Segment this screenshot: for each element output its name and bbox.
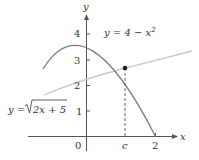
y-axis-arrow-icon [84,14,89,20]
y-tick-label-1: 1 [76,106,82,117]
chart: y x 4 3 2 1 0 c 2 y = 4 − x2 y = 2x + 5 [0,0,199,160]
sqrt-equation-body: 2x + 5 [32,104,66,115]
y-tick-label-3: 3 [74,55,80,66]
parabola-curve [43,45,156,136]
parabola-equation-text: y = 4 − x [103,27,151,38]
y-axis-label: y [82,1,89,12]
x-axis-arrow-icon [172,134,178,139]
y-tick-label-2: 2 [74,80,80,91]
x-axis-label: x [180,131,186,142]
sqrt-curve [44,51,192,95]
x-tick-label-2: 2 [152,140,158,151]
sqrt-equation-lhs: y = [7,104,25,115]
y-tick-label-4: 4 [74,28,80,39]
origin-label: 0 [75,140,81,151]
intersection-point [123,66,128,71]
c-label: c [122,140,128,151]
parabola-exponent: 2 [150,26,156,34]
parabola-equation: y = 4 − x2 [103,26,156,38]
